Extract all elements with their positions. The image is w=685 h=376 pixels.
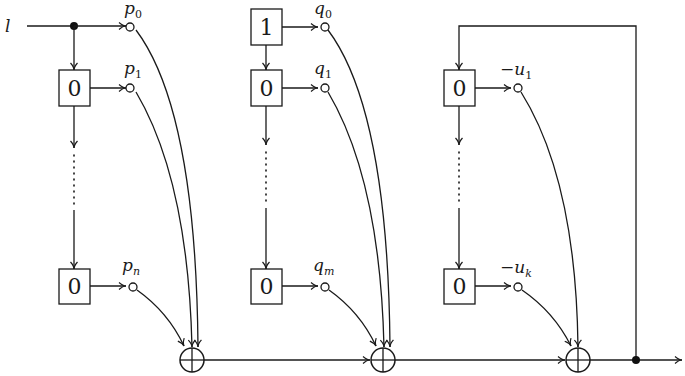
tap-node-q1	[321, 84, 329, 92]
curve-u1-to-adder3	[521, 92, 578, 347]
tap-node-p1	[126, 84, 134, 92]
register-value-q-top: 0	[260, 76, 274, 101]
curve-qm-to-adder2	[329, 290, 376, 346]
feedback-wire	[459, 26, 636, 360]
adder-3	[566, 348, 590, 372]
curve-q0-to-adder2	[328, 30, 390, 347]
register-value-p-bottom: 0	[68, 274, 82, 299]
u-register-column: 0 −u1 0 −uk	[444, 26, 636, 360]
tap-node-p0	[126, 23, 134, 31]
adder-2	[371, 348, 395, 372]
q-register-column: 1 q0 0 q1 0 qm	[251, 0, 390, 347]
feedback-junction-dot	[632, 356, 640, 364]
tap-node-pn	[129, 283, 137, 291]
input-label: l	[5, 16, 10, 36]
register-value-q-bottom: 0	[260, 274, 274, 299]
register-value-p-top: 0	[68, 76, 82, 101]
tap-node-uk	[514, 283, 522, 291]
curve-q1-to-adder2	[328, 92, 384, 347]
tap-label-pn: pn	[122, 255, 140, 278]
lfsr-signal-flow-diagram: l p0 0 p1 0 pn 1 q0	[0, 0, 685, 376]
tap-label-p1: p1	[124, 58, 142, 81]
curve-pn-to-adder1	[137, 290, 184, 346]
tap-node-qm	[321, 283, 329, 291]
curve-p0-to-adder1	[136, 30, 198, 347]
tap-node-q0	[321, 23, 329, 31]
tap-node-u1	[514, 84, 522, 92]
curve-uk-to-adder3	[522, 290, 571, 346]
tap-label-qm: qm	[313, 255, 334, 278]
tap-label-u1: −u1	[500, 59, 532, 82]
register-value-u-top: 0	[453, 76, 467, 101]
adder-1	[180, 348, 204, 372]
tap-label-q0: q0	[314, 0, 332, 21]
curve-p1-to-adder1	[136, 92, 192, 347]
tap-label-q1: q1	[314, 58, 332, 81]
register-value-q-initial: 1	[260, 15, 274, 40]
tap-label-p0: p0	[124, 0, 142, 21]
register-value-u-bottom: 0	[453, 274, 467, 299]
p-register-column: p0 0 p1 0 pn	[59, 0, 198, 347]
tap-label-uk: −uk	[500, 257, 532, 280]
